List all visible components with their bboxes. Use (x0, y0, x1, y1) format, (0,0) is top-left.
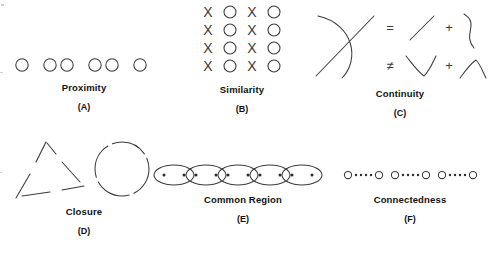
broken-circle (95, 142, 149, 196)
plus-operator-1: + (445, 20, 453, 35)
svg-text:X: X (203, 58, 213, 74)
svg-text:X: X (247, 22, 257, 38)
svg-text:X: X (247, 58, 257, 74)
svg-text:X: X (203, 4, 213, 20)
svg-text:X: X (203, 22, 213, 38)
broken-triangle (16, 142, 84, 198)
panel-similarity: X X X X X X X X (168, 2, 316, 114)
connectedness-artwork (330, 160, 490, 190)
panel-caption: Common Region (150, 194, 336, 205)
panel-caption: Closure (0, 206, 168, 217)
common-region-artwork (150, 160, 336, 190)
svg-text:X: X (203, 40, 213, 56)
panel-letter: (B) (168, 104, 316, 114)
panel-closure: Closure (D) (0, 136, 168, 236)
panel-caption: Continuity (310, 88, 490, 99)
equals-operator: = (386, 20, 394, 35)
not-equals-operator: ≠ (386, 58, 393, 73)
svg-text:X: X (247, 4, 257, 20)
panel-letter: (A) (0, 102, 168, 112)
connected-group (438, 171, 476, 178)
scan-artifact (1, 4, 4, 6)
gestalt-principles-figure: Proximity (A) X X X X X (0, 0, 490, 266)
panel-letter: (E) (150, 214, 336, 224)
ellipse-chain (154, 165, 322, 185)
continuity-artwork: = + ≠ + (310, 2, 490, 84)
panel-continuity: = + ≠ + Continuity (C) (310, 2, 490, 118)
connected-group (391, 171, 429, 178)
panel-caption: Proximity (0, 82, 168, 93)
similarity-artwork: X X X X X X X X (168, 2, 316, 80)
panel-letter: (D) (0, 226, 168, 236)
plus-operator-2: + (445, 58, 453, 73)
common-region-dots (163, 174, 314, 177)
closure-artwork (0, 136, 168, 202)
panel-connectedness: Connectedness (F) (330, 160, 490, 224)
panel-common-region: Common Region (E) (150, 160, 336, 224)
panel-letter: (F) (330, 214, 490, 224)
connected-group (344, 171, 382, 178)
panel-letter: (C) (310, 108, 490, 118)
panel-caption: Connectedness (330, 194, 490, 205)
panel-proximity: Proximity (A) (0, 52, 168, 112)
similarity-grid: X X X X X X X X (203, 4, 280, 74)
proximity-artwork (0, 52, 168, 78)
panel-caption: Similarity (168, 84, 316, 95)
svg-text:X: X (247, 40, 257, 56)
